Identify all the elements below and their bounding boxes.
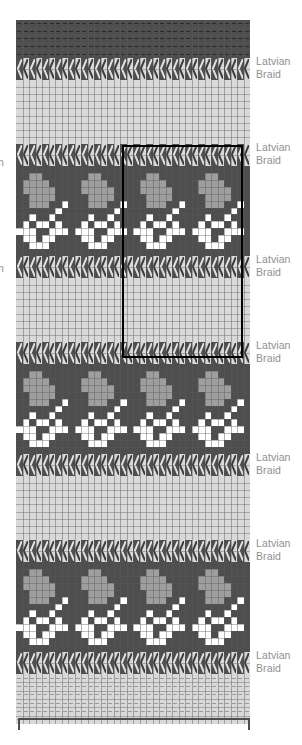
chevron-left-icon	[231, 257, 236, 276]
purl-dash-mark	[95, 686, 99, 687]
chevron-left-icon	[114, 257, 119, 276]
purl-dash-mark	[219, 38, 223, 39]
grid-vline	[237, 278, 238, 342]
purl-dash-mark	[199, 23, 203, 24]
purl-dash-mark	[82, 54, 86, 55]
purl-dash-mark	[212, 38, 216, 39]
chevron-left-icon	[212, 257, 217, 276]
purl-dash-mark	[76, 711, 80, 712]
motif-row	[16, 624, 250, 631]
latvian-braid-row	[16, 540, 250, 562]
grid-hline	[16, 526, 250, 527]
chevron-left-icon	[199, 145, 204, 164]
motif-cell	[244, 364, 251, 371]
motif-cell	[244, 419, 251, 426]
purl-dash-mark	[30, 703, 34, 704]
grid-vline	[23, 476, 24, 540]
purl-dash-mark	[134, 54, 138, 55]
grid-vline	[211, 476, 212, 540]
chart-band-motif	[16, 364, 250, 454]
purl-dash-mark	[206, 711, 210, 712]
motif-cell	[244, 249, 251, 256]
motif-cell	[244, 371, 251, 378]
chevron-left-icon	[134, 59, 139, 78]
chart-band-motif	[16, 562, 250, 652]
purl-dash-mark	[69, 703, 73, 704]
grid-vline	[107, 80, 108, 144]
chevron-left-icon	[140, 257, 145, 276]
chevron-left-icon	[43, 59, 48, 78]
grid-vline	[198, 278, 199, 342]
grid-hline	[16, 314, 250, 315]
purl-dash-mark	[50, 31, 54, 32]
purl-dash-mark	[56, 703, 60, 704]
grid-vline	[114, 476, 115, 540]
purl-dash-mark	[147, 711, 151, 712]
purl-dash-mark	[173, 46, 177, 47]
purl-dash-mark	[199, 38, 203, 39]
chevron-left-icon	[82, 653, 87, 672]
grid-vline	[192, 80, 193, 144]
grid-vline	[114, 278, 115, 342]
colorwork-chart-grid[interactable]	[16, 20, 250, 710]
chevron-left-icon	[238, 257, 243, 276]
chevron-left-icon	[186, 59, 191, 78]
grid-vline	[94, 476, 95, 540]
chevron-left-icon	[36, 145, 41, 164]
purl-dash-mark	[102, 711, 106, 712]
chevron-left-icon	[49, 455, 54, 474]
purl-dash-mark	[147, 694, 151, 695]
chevron-left-icon	[153, 455, 158, 474]
purl-dash-mark	[108, 694, 112, 695]
motif-cell	[244, 576, 251, 583]
chevron-left-icon	[82, 455, 87, 474]
chevron-left-icon	[88, 455, 93, 474]
purl-dash-mark	[89, 54, 93, 55]
chevron-left-icon	[88, 59, 93, 78]
motif-cell	[244, 631, 251, 638]
purl-dash-mark	[63, 694, 67, 695]
motif-row	[16, 371, 250, 378]
chevron-left-icon	[23, 455, 28, 474]
motif-row	[16, 194, 250, 201]
motif-cell	[244, 399, 251, 406]
chevron-left-icon	[36, 455, 41, 474]
purl-dash-cell	[244, 35, 251, 43]
chevron-left-icon	[49, 257, 54, 276]
grid-vline	[29, 476, 30, 540]
purl-dash-mark	[76, 31, 80, 32]
chevron-left-icon	[205, 343, 210, 362]
chevron-left-icon	[186, 455, 191, 474]
purl-dash-cell	[244, 28, 251, 36]
chevron-left-icon	[218, 145, 223, 164]
chevron-left-icon	[127, 343, 132, 362]
chevron-left-icon	[101, 257, 106, 276]
purl-dash-mark	[17, 54, 21, 55]
motif-cell	[244, 235, 251, 242]
purl-dash-mark	[193, 686, 197, 687]
grid-vline	[153, 278, 154, 342]
motif-row	[16, 249, 250, 256]
chevron-left-icon	[69, 343, 74, 362]
grid-hline	[16, 321, 250, 322]
chevron-left-icon	[166, 145, 171, 164]
chevron-left-icon	[121, 541, 126, 560]
purl-dash-mark	[115, 678, 119, 679]
motif-row	[16, 645, 250, 652]
purl-dash-mark	[212, 686, 216, 687]
grid-vline	[120, 80, 121, 144]
purl-dash-mark	[180, 38, 184, 39]
purl-dash-mark	[128, 694, 132, 695]
grid-vline	[88, 80, 89, 144]
purl-dash-mark	[141, 23, 145, 24]
chevron-left-icon	[17, 59, 22, 78]
grid-hline	[16, 108, 250, 109]
purl-dash-mark	[238, 678, 242, 679]
grid-vline	[101, 278, 102, 342]
purl-dash-mark	[37, 54, 41, 55]
chevron-left-icon	[56, 343, 61, 362]
grid-vline	[55, 80, 56, 144]
purl-dash-mark	[232, 711, 236, 712]
purl-dash-mark	[37, 38, 41, 39]
chevron-left-icon	[231, 145, 236, 164]
